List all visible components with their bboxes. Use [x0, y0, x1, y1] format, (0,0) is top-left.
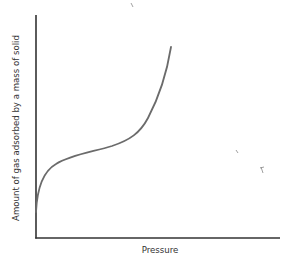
- x-axis-label: Pressure: [142, 245, 179, 255]
- scan-specks: [131, 3, 264, 173]
- isotherm-chart: [0, 0, 299, 266]
- y-axis-label: Amount of gas adsorbed by a mass of soli…: [11, 8, 21, 248]
- isotherm-curve: [36, 47, 171, 212]
